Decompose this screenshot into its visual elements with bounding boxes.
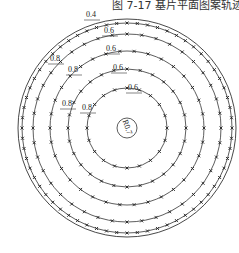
x-mark-icon [67, 214, 70, 217]
x-mark-icon [182, 178, 185, 181]
x-mark-icon [70, 50, 73, 53]
x-mark-icon [218, 77, 221, 80]
x-mark-icon [158, 150, 161, 153]
dimension-label: 0.8 [50, 54, 60, 63]
x-mark-icon [38, 68, 41, 71]
x-mark-icon [79, 90, 82, 93]
x-mark-icon [89, 80, 92, 83]
x-mark-icon [151, 180, 154, 183]
dimension-label: 0.6 [113, 63, 123, 72]
x-mark-icon [49, 71, 52, 74]
x-mark-icon [100, 73, 103, 76]
dimension-label: 0.8 [68, 65, 78, 74]
x-mark-icon [83, 43, 86, 46]
x-mark-icon [91, 195, 94, 198]
x-mark-icon [179, 101, 182, 104]
x-mark-icon [79, 65, 82, 68]
x-mark-icon [60, 86, 63, 89]
x-mark-icon [69, 178, 72, 181]
x-mark-icon [102, 159, 105, 162]
x-mark-icon [172, 163, 175, 166]
x-mark-icon [149, 94, 152, 97]
dimension-label: 0.4 [86, 10, 96, 19]
x-mark-icon [184, 214, 187, 217]
x-mark-icon [67, 39, 70, 42]
x-mark-icon [76, 34, 79, 37]
x-mark-icon [38, 185, 41, 188]
x-mark-icon [218, 176, 221, 179]
x-mark-icon [200, 201, 203, 204]
x-mark-icon [89, 173, 92, 176]
x-mark-icon [184, 39, 187, 42]
x-mark-icon [179, 152, 182, 155]
dimension-label: 0.8 [62, 99, 72, 108]
x-mark-icon [91, 58, 94, 61]
x-mark-icon [191, 167, 194, 170]
x-mark-icon [79, 163, 82, 166]
dimension-label: 0.6 [128, 83, 138, 92]
x-mark-icon [93, 103, 96, 106]
x-mark-icon [79, 188, 82, 191]
x-mark-icon [172, 65, 175, 68]
x-mark-icon [181, 50, 184, 53]
x-mark-icon [175, 34, 178, 37]
x-mark-icon [172, 188, 175, 191]
x-mark-icon [192, 45, 195, 48]
x-mark-icon [100, 180, 103, 183]
x-mark-icon [207, 193, 210, 196]
x-mark-icon [76, 219, 79, 222]
x-mark-icon [49, 182, 52, 185]
x-mark-icon [102, 94, 105, 97]
x-mark-icon [149, 159, 152, 162]
x-mark-icon [33, 176, 36, 179]
x-mark-icon [202, 71, 205, 74]
x-mark-icon [72, 152, 75, 155]
x-mark-icon [213, 185, 216, 188]
x-mark-icon [162, 80, 165, 83]
x-mark-icon [202, 182, 205, 185]
x-mark-icon [72, 101, 75, 104]
x-mark-icon [160, 195, 163, 198]
x-mark-icon [191, 86, 194, 89]
x-mark-icon [192, 208, 195, 211]
x-mark-icon [182, 75, 185, 78]
x-mark-icon [83, 210, 86, 213]
x-mark-icon [160, 58, 163, 61]
x-mark-icon [59, 193, 62, 196]
x-mark-icon [158, 103, 161, 106]
x-mark-icon [162, 173, 165, 176]
x-mark-icon [209, 84, 212, 87]
x-mark-icon [151, 73, 154, 76]
x-mark-icon [192, 193, 195, 196]
x-mark-icon [213, 68, 216, 71]
x-mark-icon [44, 60, 47, 63]
x-mark-icon [42, 84, 45, 87]
x-mark-icon [51, 201, 54, 204]
x-mark-icon [44, 193, 47, 196]
dimension-label: 0.6 [106, 44, 116, 53]
dimension-label: 0.8 [82, 103, 92, 112]
x-mark-icon [60, 167, 63, 170]
x-mark-icon [207, 60, 210, 63]
x-mark-icon [209, 169, 212, 172]
x-mark-icon [59, 208, 62, 211]
x-mark-icon [181, 203, 184, 206]
dimension-label: 0.6 [104, 26, 114, 35]
x-mark-icon [70, 203, 73, 206]
x-mark-icon [168, 210, 171, 213]
radius-label: R0.7 [120, 118, 134, 135]
x-mark-icon [33, 77, 36, 80]
x-mark-icon [192, 60, 195, 63]
x-mark-icon [172, 90, 175, 93]
x-mark-icon [175, 219, 178, 222]
x-mark-icon [200, 52, 203, 55]
concentric-track-diagram: R0.70.40.60.60.60.60.80.80.80.8 [0, 0, 239, 253]
x-mark-icon [168, 43, 171, 46]
x-mark-icon [42, 169, 45, 172]
x-mark-icon [59, 45, 62, 48]
x-mark-icon [93, 150, 96, 153]
